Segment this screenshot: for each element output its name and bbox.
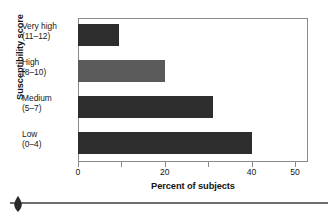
x-tick-label-50: 50 xyxy=(290,167,300,177)
category-label-line2: (0–4) xyxy=(22,140,76,150)
category-label-high: High (8–10) xyxy=(22,58,76,77)
bar-high xyxy=(78,60,165,82)
x-tick-label-0: 0 xyxy=(76,167,81,177)
category-label-line2: (8–10) xyxy=(22,68,76,78)
bar-medium xyxy=(78,96,213,118)
x-axis-tick-labels: 0204050 xyxy=(78,167,308,181)
x-axis-title: Percent of subjects xyxy=(78,181,308,191)
teardrop-icon xyxy=(12,196,24,212)
bar-very-high xyxy=(78,24,119,46)
category-label-line2: (5–7) xyxy=(22,104,76,114)
bar-chart-figure: Susceptibility score Very high (11–12) H… xyxy=(0,0,328,214)
bars-layer xyxy=(78,18,308,162)
y-axis-category-labels: Very high (11–12) High (8–10) Medium (5–… xyxy=(22,18,76,162)
bottom-ornament xyxy=(0,196,328,214)
bar-low xyxy=(78,132,252,154)
category-label-very-high: Very high (11–12) xyxy=(22,22,76,41)
category-label-medium: Medium (5–7) xyxy=(22,94,76,113)
ornament-rule xyxy=(10,202,328,204)
x-tick-label-40: 40 xyxy=(247,167,257,177)
x-tick-label-20: 20 xyxy=(160,167,170,177)
category-label-line2: (11–12) xyxy=(22,32,76,42)
category-label-low: Low (0–4) xyxy=(22,130,76,149)
